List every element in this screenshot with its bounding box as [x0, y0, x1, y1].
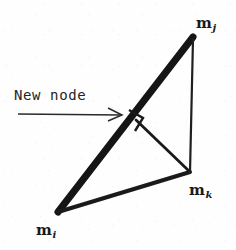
vertex-label-mi-subscript: i — [52, 229, 56, 240]
edge-mi-mj — [58, 37, 193, 212]
vertex-label-mk: mk — [189, 183, 212, 200]
triangle-diagram — [0, 0, 236, 250]
vertex-label-mj: mj — [196, 16, 216, 33]
edge-newnode-mk — [136, 120, 189, 171]
vertex-label-mj-subscript: j — [212, 22, 216, 33]
right-arrow-icon — [18, 108, 122, 121]
vertex-label-mk-base: m — [189, 181, 205, 199]
figure-canvas: New node mj mk mi — [0, 0, 236, 250]
vertex-label-mk-subscript: k — [205, 189, 212, 200]
vertex-label-mi: mi — [36, 223, 56, 240]
new-node-annotation-label: New node — [14, 88, 86, 102]
edge-mj-mk — [190, 39, 193, 172]
vertex-label-mj-base: m — [196, 14, 212, 32]
vertex-label-mi-base: m — [36, 221, 52, 239]
